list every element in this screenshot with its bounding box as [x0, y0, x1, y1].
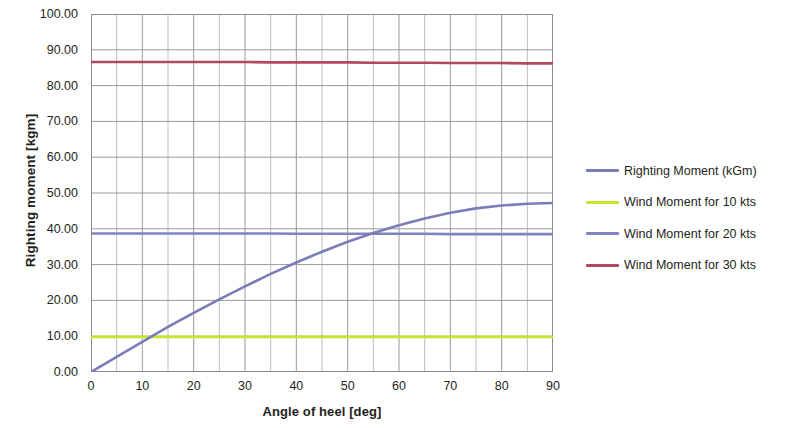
legend-item-label: Wind Moment for 20 kts [624, 227, 756, 241]
x-axis-tick-label: 40 [276, 379, 316, 393]
x-axis-tick-label: 50 [328, 379, 368, 393]
legend-item-label: Righting Moment (kGm) [624, 164, 757, 178]
legend-item-label: Wind Moment for 30 kts [624, 258, 756, 272]
legend-color-swatch [586, 201, 619, 204]
legend-item[interactable]: Wind Moment for 20 kts [586, 218, 789, 250]
x-axis-tick-label: 60 [379, 379, 419, 393]
legend-color-swatch [586, 264, 619, 267]
x-axis-tick-label: 30 [225, 379, 265, 393]
x-axis-tick-label: 80 [482, 379, 522, 393]
legend-item-label: Wind Moment for 10 kts [624, 195, 756, 209]
x-axis-tick-label: 10 [122, 379, 162, 393]
x-axis-tick-label: 0 [71, 379, 111, 393]
x-axis-tick-label: 90 [533, 379, 573, 393]
x-axis-title: Angle of heel [deg] [91, 404, 553, 419]
legend-item[interactable]: Wind Moment for 30 kts [586, 250, 789, 282]
legend-color-swatch [586, 169, 619, 172]
chart-container: Righting moment [kgm] 0.0010.0020.0030.0… [0, 0, 789, 428]
x-axis-tick-label: 20 [174, 379, 214, 393]
legend-item[interactable]: Righting Moment (kGm) [586, 155, 789, 187]
legend-color-swatch [586, 232, 619, 235]
legend-item[interactable]: Wind Moment for 10 kts [586, 187, 789, 219]
x-axis-tick-label: 70 [430, 379, 470, 393]
chart-legend: Righting Moment (kGm)Wind Moment for 10 … [586, 155, 789, 281]
